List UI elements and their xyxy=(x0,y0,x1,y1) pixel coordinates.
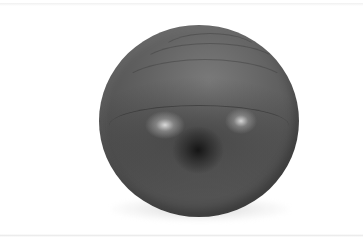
exercise-ball xyxy=(99,25,299,217)
top-edge-line xyxy=(0,3,363,6)
photo-frame xyxy=(0,0,363,241)
ball-seam xyxy=(109,105,289,146)
bottom-edge-line xyxy=(0,234,363,237)
